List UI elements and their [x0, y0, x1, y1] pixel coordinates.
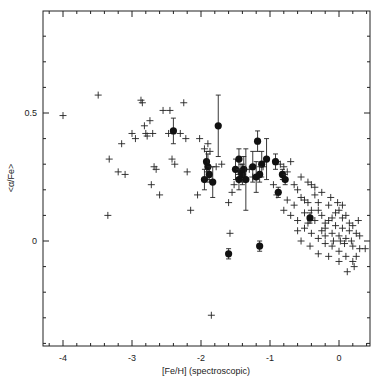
plus-marker: [166, 107, 173, 114]
plus-marker: [336, 248, 343, 255]
plus-marker: [118, 140, 125, 147]
plus-marker: [156, 191, 163, 198]
plus-marker: [315, 207, 322, 214]
y-tick-label: 0: [32, 236, 37, 246]
y-axis-tick-labels: 00.5: [24, 108, 37, 246]
cluster-marker: [170, 118, 177, 144]
plus-marker: [330, 238, 337, 245]
cluster-marker: [225, 249, 232, 259]
plus-marker: [291, 202, 298, 209]
plus-marker: [294, 217, 301, 224]
plus-marker: [287, 158, 294, 165]
plus-marker: [291, 181, 298, 188]
plus-marker: [280, 207, 287, 214]
y-axis-label: <α/Fe>: [6, 164, 16, 193]
field-stars-series: [60, 92, 369, 319]
plus-marker: [226, 230, 233, 237]
plus-marker: [349, 258, 356, 265]
y-tick-label: 0.5: [24, 108, 37, 118]
plus-marker: [301, 209, 308, 216]
plus-marker: [146, 117, 153, 124]
plus-marker: [298, 174, 305, 181]
plus-marker: [196, 135, 203, 142]
plus-marker: [180, 99, 187, 106]
plus-marker: [148, 181, 155, 188]
plus-marker: [346, 227, 353, 234]
plus-marker: [329, 230, 336, 237]
plus-marker: [122, 171, 129, 178]
cluster-marker: [254, 131, 261, 151]
globular-clusters-series: [170, 95, 314, 259]
x-tick-label: 0: [336, 353, 341, 363]
plus-marker: [160, 107, 167, 114]
plus-marker: [129, 130, 136, 137]
plus-marker: [315, 199, 322, 206]
plus-marker: [106, 156, 113, 163]
plus-marker: [355, 217, 362, 224]
x-tick-label: -1: [266, 353, 274, 363]
x-tick-label: -2: [197, 353, 205, 363]
plus-marker: [318, 212, 325, 219]
plus-marker: [104, 212, 111, 219]
plus-marker: [301, 225, 308, 232]
cluster-marker: [263, 139, 270, 180]
plus-marker: [60, 112, 67, 119]
plus-marker: [298, 238, 305, 245]
plus-marker: [187, 207, 194, 214]
plus-marker: [141, 122, 148, 129]
plus-marker: [284, 197, 291, 204]
plus-marker: [336, 232, 343, 239]
scatter-chart: -4-3-2-10 00.5 [Fe/H] (spectroscopic) <α…: [0, 0, 379, 384]
plus-marker: [349, 243, 356, 250]
plus-marker: [184, 168, 191, 175]
plus-marker: [344, 268, 351, 275]
plus-marker: [182, 135, 189, 142]
cluster-marker: [275, 187, 282, 197]
cluster-marker: [272, 154, 279, 169]
plus-marker: [342, 253, 349, 260]
cluster-marker: [215, 95, 222, 156]
plus-marker: [311, 191, 318, 198]
x-tick-label: -3: [128, 353, 136, 363]
plus-marker: [339, 225, 346, 232]
plus-marker: [325, 253, 332, 260]
plus-marker: [95, 92, 102, 99]
plus-marker: [194, 191, 201, 198]
cluster-marker: [256, 241, 263, 251]
plus-marker: [294, 227, 301, 234]
plus-marker: [322, 240, 329, 247]
plus-marker: [294, 186, 301, 193]
plus-marker: [115, 168, 122, 175]
plus-marker: [315, 250, 322, 257]
plus-marker: [132, 135, 139, 142]
plus-marker: [336, 258, 343, 265]
plus-marker: [322, 232, 329, 239]
x-axis-tick-labels: -4-3-2-10: [59, 353, 342, 363]
plus-marker: [327, 194, 334, 201]
plus-marker: [329, 243, 336, 250]
plus-marker: [332, 222, 339, 229]
plus-marker: [177, 130, 184, 137]
plus-marker: [229, 189, 236, 196]
x-tick-label: -4: [59, 353, 67, 363]
plus-marker: [225, 199, 232, 206]
plus-marker: [287, 212, 294, 219]
plus-marker: [325, 202, 332, 209]
plus-marker: [315, 235, 322, 242]
plus-marker: [307, 243, 314, 250]
plus-marker: [204, 140, 211, 147]
plus-marker: [351, 263, 358, 270]
plus-marker: [353, 253, 360, 260]
plus-marker: [208, 312, 215, 319]
plus-marker: [318, 189, 325, 196]
x-axis-label: [Fe/H] (spectroscopic): [162, 366, 250, 376]
plus-marker: [308, 230, 315, 237]
plus-marker: [362, 245, 369, 252]
